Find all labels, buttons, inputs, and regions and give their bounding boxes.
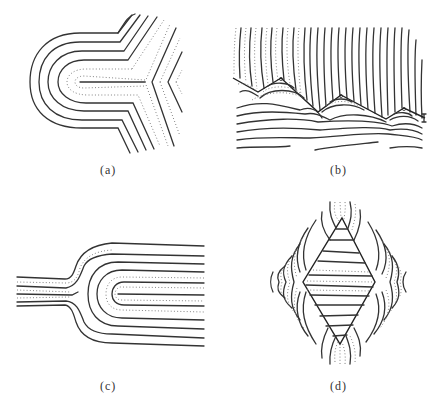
diagram-canvas [0, 0, 439, 408]
panel-a-drawing [30, 14, 182, 153]
panel-a-label: (a) [100, 163, 116, 178]
panel-d-drawing [271, 202, 406, 364]
panel-b-label: (b) [330, 163, 347, 178]
panel-c-drawing [17, 243, 204, 346]
figure: (a) (b) (c) (d) [0, 0, 439, 408]
panel-b-drawing [233, 28, 426, 150]
panel-d-label: (d) [330, 379, 347, 394]
panel-c-label: (c) [100, 379, 116, 394]
